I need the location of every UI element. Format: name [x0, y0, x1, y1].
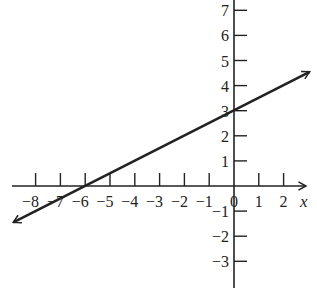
x-tick-label: −8 — [22, 193, 39, 210]
x-tick-label: −5 — [96, 193, 113, 210]
x-tick-label: −2 — [171, 193, 188, 210]
x-tick-label: 1 — [255, 193, 263, 210]
x-tick-label: −4 — [121, 193, 138, 210]
x-tick-label: −3 — [146, 193, 163, 210]
x-tick-label: −1 — [196, 193, 213, 210]
x-axis-ticks: −8−7−6−5−4−3−2−1012 — [22, 173, 288, 210]
y-tick-label: −2 — [212, 228, 229, 245]
y-tick-label: 5 — [221, 53, 229, 70]
x-axis-label: x — [299, 192, 308, 211]
coordinate-graph: −8−7−6−5−4−3−2−1012 −3−2−11234567 x — [0, 0, 317, 295]
x-tick-label: −6 — [72, 193, 89, 210]
x-tick-label: 2 — [280, 193, 288, 210]
x-tick-label: 0 — [230, 193, 238, 210]
y-tick-label: 1 — [221, 153, 229, 170]
y-tick-label: −1 — [212, 203, 229, 220]
y-axis-ticks: −3−2−11234567 — [212, 2, 247, 270]
y-tick-label: 4 — [221, 78, 229, 95]
y-tick-label: 2 — [221, 128, 229, 145]
y-tick-label: 6 — [221, 27, 229, 44]
y-tick-label: 7 — [221, 2, 229, 19]
y-tick-label: −3 — [212, 253, 229, 270]
